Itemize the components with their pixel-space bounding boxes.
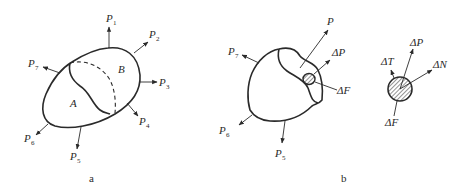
caption-b: b [341,172,347,184]
area-leader-delta-f [394,101,397,116]
region-label-b: B [118,63,125,75]
force-label-p5: P 5 [274,147,286,162]
area-label-delta-f: ΔF [384,116,398,128]
force-label-p7: P 7 [27,57,39,72]
force-label-p2: P 2 [148,28,160,43]
figure-a: A B P 1 P 2 P 3 P 4 P 5 [23,12,170,184]
svg-text:6: 6 [31,139,35,147]
figure-b: P ΔP ΔF P 5 P 6 P 7 b [218,15,350,184]
figure-detail: ΔP ΔN ΔT ΔF [380,36,447,128]
svg-text:2: 2 [156,35,160,43]
force-arrow-p4 [127,103,138,116]
force-arrow-p6 [36,124,48,135]
force-label-delta-p: ΔP [409,36,423,48]
force-label-p5: P 5 [69,150,81,165]
force-label-p6: P 6 [23,132,35,147]
force-label-p4: P 4 [138,115,150,130]
svg-text:P: P [105,12,113,24]
area-leader-delta-f [315,82,337,90]
svg-text:P: P [138,115,146,127]
svg-text:P: P [218,124,226,136]
force-label-delta-n: ΔN [432,58,447,70]
force-label-p3: P 3 [158,76,170,91]
body-outline [43,48,140,128]
caption-a: a [89,172,94,184]
stress-diagram: A B P 1 P 2 P 3 P 4 P 5 [0,0,473,191]
svg-text:1: 1 [113,19,117,27]
svg-text:P: P [274,147,282,159]
svg-text:3: 3 [166,83,170,91]
force-arrow-p2 [134,42,148,53]
force-label-delta-p: ΔP [331,46,345,58]
area-element [303,74,315,85]
force-arrow-p5 [282,121,285,143]
svg-text:P: P [27,57,35,69]
area-label-delta-f: ΔF [336,84,350,96]
svg-text:P: P [227,45,235,57]
force-arrow-p7 [43,67,60,73]
svg-text:5: 5 [282,154,286,162]
svg-text:P: P [23,132,31,144]
cut-surface-dashed [70,62,115,113]
force-arrow-p7 [242,55,259,63]
svg-text:5: 5 [77,157,81,165]
svg-text:P: P [69,150,77,162]
force-arrow-p6 [239,115,252,125]
svg-text:P: P [148,28,156,40]
force-arrow-delta-t [391,70,394,78]
force-arrow-p [300,30,328,68]
svg-text:6: 6 [226,131,230,139]
force-label-p7: P 7 [227,45,239,60]
svg-text:7: 7 [235,52,239,60]
force-label-delta-t: ΔT [380,55,394,67]
svg-text:7: 7 [35,64,39,72]
svg-text:4: 4 [146,122,150,130]
region-label-a: A [69,97,77,109]
force-label-p: P [326,15,334,27]
force-label-p1: P 1 [105,12,117,27]
force-arrow-p5 [77,127,81,149]
force-label-p6: P 6 [218,124,230,139]
svg-text:P: P [158,76,166,88]
